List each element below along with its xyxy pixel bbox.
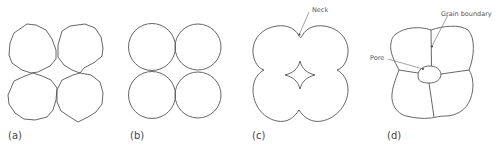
panel-c-label: (c) [252,130,265,141]
panel-d-grains [391,26,474,118]
panel-b-particles [129,24,222,119]
panel-c-necked-particles [253,26,348,122]
pore-leader-line [388,59,424,70]
panel-b-label: (b) [130,130,144,141]
pore-label: Pore [370,54,384,62]
star-pore [285,61,315,89]
grain-boundary-label: Grain boundary [441,10,492,18]
panel-d-label: (d) [387,130,401,141]
neck-label: Neck [312,6,328,14]
grain-boundary-leader-line [431,15,448,47]
panel-a-particles [8,24,103,122]
sintering-diagram [0,0,503,151]
panel-a-label: (a) [8,130,22,141]
neck-leader-line [299,12,309,35]
